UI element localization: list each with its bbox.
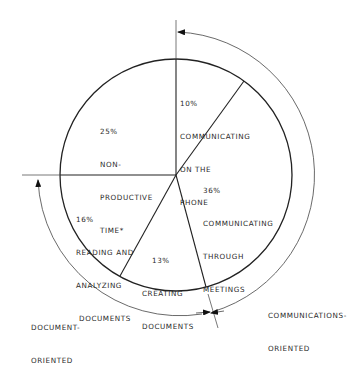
nonprod-line3: TIME* <box>100 225 153 236</box>
phone-line1: COMMUNICATING <box>180 131 250 142</box>
meetings-line2: THROUGH <box>203 251 273 262</box>
reading-line2: ANALYZING <box>76 280 134 291</box>
slice-label-meetings: 36% COMMUNICATING THROUGH MEETINGS <box>203 163 273 306</box>
communications-arc-end-arrow <box>196 312 210 313</box>
group-label-document: DOCUMENT- ORIENTED <box>31 300 80 367</box>
meetings-percent: 36% <box>203 185 273 196</box>
comm-group-line2: ORIENTED <box>268 343 347 354</box>
creating-line2: DOCUMENTS <box>142 321 194 332</box>
nonprod-line2: PRODUCTIVE <box>100 192 153 203</box>
nonprod-line1: NON- <box>100 159 153 170</box>
phone-percent: 10% <box>180 98 250 109</box>
creating-line1: CREATING <box>142 288 194 299</box>
slice-label-nonproductive: 25% NON- PRODUCTIVE TIME* <box>100 104 153 247</box>
meetings-line3: MEETINGS <box>203 284 273 295</box>
comm-group-line1: COMMUNICATIONS- <box>268 310 347 321</box>
doc-group-line1: DOCUMENT- <box>31 322 80 333</box>
nonprod-percent: 25% <box>100 126 153 137</box>
doc-group-line2: ORIENTED <box>31 355 80 366</box>
reading-line3: DOCUMENTS <box>76 313 134 324</box>
reading-line1: READING AND <box>76 247 134 258</box>
slice-label-creating: 13% CREATING DOCUMENTS <box>142 233 194 343</box>
creating-percent: 13% <box>142 255 194 266</box>
meetings-line1: COMMUNICATING <box>203 218 273 229</box>
group-label-communications: COMMUNICATIONS- ORIENTED <box>268 288 347 365</box>
